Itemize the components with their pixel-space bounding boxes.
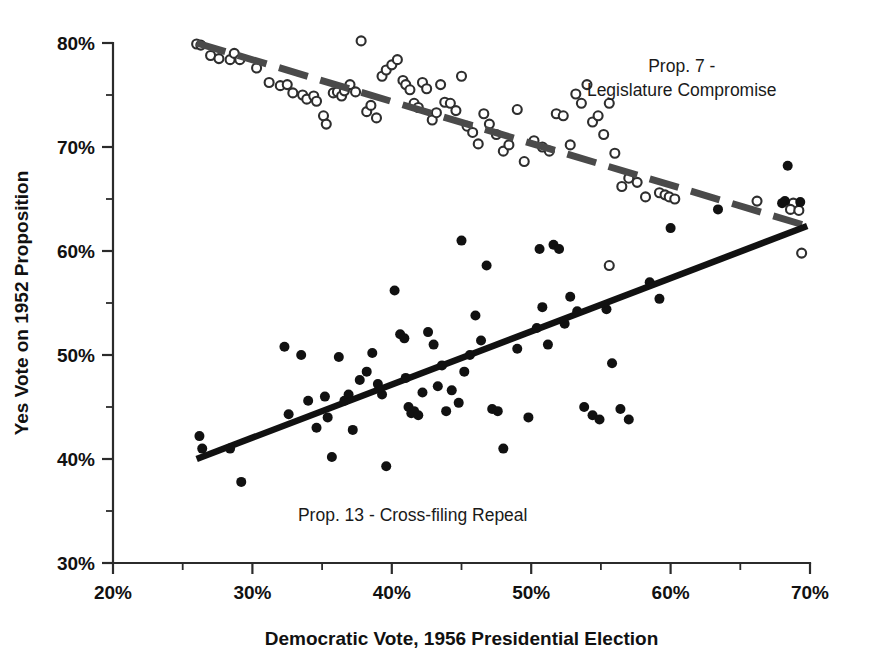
data-point-filled <box>535 244 545 254</box>
data-point-open <box>451 106 460 115</box>
data-point-open <box>633 178 642 187</box>
data-point-filled <box>284 409 294 419</box>
data-point-filled <box>795 197 805 207</box>
data-point-open <box>641 192 650 201</box>
data-point-open <box>474 139 483 148</box>
x-tick-labels: 20%30%40%50%60%70% <box>94 582 829 603</box>
data-point-filled <box>296 350 306 360</box>
data-point-filled <box>417 387 427 397</box>
data-point-filled <box>390 286 400 296</box>
data-point-filled <box>367 348 377 358</box>
data-point-open <box>605 261 614 270</box>
data-point-filled <box>666 223 676 233</box>
data-point-filled <box>320 392 330 402</box>
x-tick-label: 30% <box>233 582 271 603</box>
data-point-filled <box>498 444 508 454</box>
data-point-open <box>214 54 223 63</box>
data-point-filled <box>624 414 634 424</box>
series-prop13-points <box>194 161 805 487</box>
scatter-chart: 30%40%50%60%70%80% 20%30%40%50%60%70% Pr… <box>0 0 888 666</box>
data-point-open <box>559 111 568 120</box>
data-point-open <box>594 111 603 120</box>
data-point-filled <box>423 327 433 337</box>
data-point-filled <box>523 412 533 422</box>
data-point-open <box>513 105 522 114</box>
data-point-filled <box>554 244 564 254</box>
data-point-filled <box>236 477 246 487</box>
data-point-open <box>366 101 375 110</box>
data-point-filled <box>334 352 344 362</box>
prop7-trend <box>197 43 808 226</box>
prop13-label: Prop. 13 - Cross-filing Repeal <box>298 505 528 525</box>
data-point-filled <box>381 461 391 471</box>
y-tick-label: 30% <box>57 553 95 574</box>
prop7-label: Prop. 7 -Legislature Compromise <box>587 56 777 100</box>
data-point-open <box>288 88 297 97</box>
x-axis-title: Democratic Vote, 1956 Presidential Elect… <box>265 628 659 649</box>
data-point-open <box>265 78 274 87</box>
y-axis-title: Yes Vote on 1952 Proposition <box>11 171 32 436</box>
x-tick-label: 70% <box>791 582 829 603</box>
data-point-open <box>520 157 529 166</box>
x-tick-label: 20% <box>94 582 132 603</box>
data-point-filled <box>429 340 439 350</box>
x-axis: 20%30%40%50%60%70% <box>94 563 829 603</box>
data-point-filled <box>595 414 605 424</box>
data-point-filled <box>482 261 492 271</box>
data-point-filled <box>399 333 409 343</box>
data-point-filled <box>543 340 553 350</box>
data-point-filled <box>457 236 467 246</box>
data-point-open <box>436 80 445 89</box>
data-point-filled <box>312 423 322 433</box>
data-point-open <box>468 128 477 137</box>
data-point-open <box>372 113 381 122</box>
data-point-open <box>393 55 402 64</box>
data-point-filled <box>537 302 547 312</box>
y-tick-label: 50% <box>57 345 95 366</box>
data-point-filled <box>459 367 469 377</box>
data-point-open <box>566 140 575 149</box>
data-point-filled <box>447 385 457 395</box>
data-point-open <box>283 80 292 89</box>
chart-annotations: Prop. 7 -Legislature CompromiseProp. 13 … <box>298 56 777 525</box>
data-point-open <box>312 97 321 106</box>
data-point-filled <box>713 204 723 214</box>
data-point-open <box>357 36 366 45</box>
y-tick-label: 80% <box>57 33 95 54</box>
x-tick-label: 50% <box>512 582 550 603</box>
prop7-label-line: Prop. 7 - <box>648 56 715 76</box>
data-point-open <box>605 99 614 108</box>
chart-canvas: 30%40%50%60%70%80% 20%30%40%50%60%70% Pr… <box>0 0 888 666</box>
data-point-filled <box>493 406 503 416</box>
data-point-filled <box>327 452 337 462</box>
y-tick-label: 40% <box>57 449 95 470</box>
data-point-filled <box>607 358 617 368</box>
data-point-open <box>457 72 466 81</box>
data-point-filled <box>348 425 358 435</box>
data-point-filled <box>654 294 664 304</box>
data-point-open <box>794 206 803 215</box>
prop7-label-line: Legislature Compromise <box>587 80 777 100</box>
data-point-open <box>753 197 762 206</box>
y-tick-labels: 30%40%50%60%70%80% <box>57 33 95 574</box>
data-point-filled <box>454 398 464 408</box>
y-tick-label: 60% <box>57 241 95 262</box>
data-point-open <box>577 99 586 108</box>
data-point-filled <box>355 375 365 385</box>
data-point-open <box>322 120 331 129</box>
data-point-open <box>432 108 441 117</box>
prop13-label-line: Prop. 13 - Cross-filing Repeal <box>298 505 528 525</box>
data-point-open <box>422 84 431 93</box>
trend-lines <box>197 43 808 459</box>
data-point-filled <box>579 402 589 412</box>
data-point-filled <box>512 344 522 354</box>
data-point-open <box>571 89 580 98</box>
data-point-filled <box>413 410 423 420</box>
data-point-open <box>599 130 608 139</box>
prop13-trend <box>197 226 808 459</box>
data-point-filled <box>470 310 480 320</box>
data-point-open <box>479 109 488 118</box>
data-point-filled <box>565 292 575 302</box>
data-point-open <box>504 140 513 149</box>
data-point-filled <box>476 335 486 345</box>
